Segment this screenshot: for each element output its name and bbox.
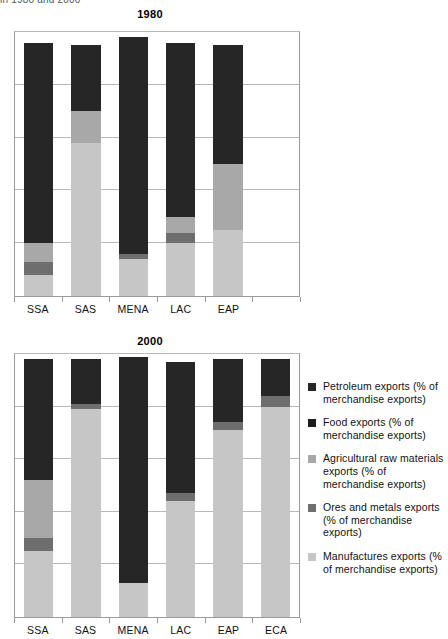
top-caption: in 1980 and 2000: [0, 0, 300, 5]
axis-tick: [157, 618, 158, 623]
plot-area-2000: [14, 353, 300, 618]
axis-label-eap: EAP: [205, 624, 253, 636]
legend-item-ores[interactable]: Ores and metals exports (% of merchandis…: [308, 501, 448, 539]
stacked-bar[interactable]: [71, 45, 100, 296]
bar-segment-petroleum[interactable]: [71, 45, 100, 111]
stacked-bar[interactable]: [119, 357, 148, 617]
bar-segment-manufactures[interactable]: [213, 430, 242, 617]
axis-tick: [109, 618, 110, 623]
legend-item-manufactures[interactable]: Manufactures exports (% of merchandise e…: [308, 550, 448, 575]
bar-segment-petroleum[interactable]: [166, 43, 195, 217]
axis-tick: [300, 618, 301, 623]
bar-slot: [62, 32, 109, 296]
bar-slot: [110, 354, 157, 617]
bar-segment-petroleum[interactable]: [213, 359, 242, 422]
axis-labels-2000: SSASASMENALACEAPECA: [14, 624, 300, 636]
axis-label-ssa: SSA: [14, 303, 62, 315]
axis-tick: [14, 618, 15, 623]
bar-segment-agricultural[interactable]: [166, 217, 195, 233]
stacked-bar[interactable]: [24, 359, 53, 617]
bar-segment-manufactures[interactable]: [119, 583, 148, 617]
axis-tick: [252, 618, 253, 623]
legend-swatch-petroleum-icon: [308, 383, 316, 391]
legend-label: Food exports (% of merchandise exports): [323, 416, 448, 441]
bar-segment-manufactures[interactable]: [166, 243, 195, 296]
bar-segment-petroleum[interactable]: [119, 357, 148, 583]
legend-swatch-agricultural-icon: [308, 455, 316, 463]
chart-title-2000: 2000: [0, 335, 300, 347]
axis-label-eca: ECA: [252, 624, 300, 636]
bar-segment-petroleum[interactable]: [261, 359, 290, 396]
bar-segment-ores[interactable]: [261, 396, 290, 407]
stacked-bar[interactable]: [213, 359, 242, 617]
bar-segment-ores[interactable]: [213, 422, 242, 430]
bar-segment-ores[interactable]: [166, 493, 195, 501]
axis-tick: [157, 297, 158, 302]
bar-segment-manufactures[interactable]: [261, 407, 290, 617]
bar-segment-agricultural[interactable]: [24, 480, 53, 538]
axis-label-mena: MENA: [109, 624, 157, 636]
bar-group: [15, 354, 299, 617]
axis-tick: [14, 297, 15, 302]
axis-label-ssa: SSA: [14, 624, 62, 636]
bar-slot: [157, 32, 204, 296]
bar-segment-manufactures[interactable]: [166, 501, 195, 617]
bar-segment-petroleum[interactable]: [213, 45, 242, 164]
axis-tick: [109, 297, 110, 302]
axis-tick: [252, 297, 253, 302]
bar-segment-petroleum[interactable]: [119, 37, 148, 253]
bar-segment-ores[interactable]: [24, 538, 53, 551]
axis-tick: [62, 618, 63, 623]
bar-segment-petroleum[interactable]: [166, 362, 195, 493]
bar-segment-agricultural[interactable]: [24, 243, 53, 261]
axis-tick: [205, 618, 206, 623]
stacked-bar[interactable]: [166, 43, 195, 296]
bar-segment-manufactures[interactable]: [213, 230, 242, 296]
legend-item-petroleum[interactable]: Petroleum exports (% of merchandise expo…: [308, 380, 448, 405]
bar-segment-petroleum[interactable]: [71, 359, 100, 404]
chart-panel-2000: 2000 SSASASMENALACEAPECA: [0, 333, 300, 639]
stacked-bar[interactable]: [119, 37, 148, 296]
legend-swatch-ores-icon: [308, 504, 316, 512]
bar-slot: [252, 32, 299, 296]
legend-item-food[interactable]: Food exports (% of merchandise exports): [308, 416, 448, 441]
stacked-bar[interactable]: [213, 45, 242, 296]
bar-slot: [15, 354, 62, 617]
chart-panel-1980: 1980 SSASASMENALACEAP: [0, 6, 300, 316]
bar-segment-petroleum[interactable]: [24, 43, 53, 244]
stacked-bar[interactable]: [166, 362, 195, 617]
axis-label-mena: MENA: [109, 303, 157, 315]
stacked-bar[interactable]: [24, 43, 53, 296]
bar-slot: [157, 354, 204, 617]
stacked-bar[interactable]: [71, 359, 100, 617]
bar-segment-petroleum[interactable]: [24, 359, 53, 480]
bar-segment-manufactures[interactable]: [119, 259, 148, 296]
axis-tick: [300, 297, 301, 302]
legend-label: Ores and metals exports (% of merchandis…: [323, 501, 448, 539]
bar-segment-manufactures[interactable]: [24, 275, 53, 296]
bar-segment-ores[interactable]: [24, 262, 53, 275]
legend-swatch-food-icon: [308, 419, 316, 427]
bar-segment-manufactures[interactable]: [71, 143, 100, 296]
axis-label-lac: LAC: [157, 303, 205, 315]
plot-area-1980: [14, 31, 300, 297]
bar-segment-manufactures[interactable]: [71, 409, 100, 617]
axis-label-sas: SAS: [62, 624, 110, 636]
axis-label-eap: EAP: [205, 303, 253, 315]
legend-swatch-manufactures-icon: [308, 553, 316, 561]
axis-labels-1980: SSASASMENALACEAP: [14, 303, 300, 315]
bar-slot: [110, 32, 157, 296]
bar-slot: [15, 32, 62, 296]
bar-segment-agricultural[interactable]: [71, 111, 100, 143]
legend-label: Agricultural raw materials exports (% of…: [323, 452, 448, 490]
bar-group: [15, 32, 299, 296]
stacked-bar[interactable]: [261, 359, 290, 617]
bar-segment-ores[interactable]: [166, 233, 195, 244]
axis-tick: [205, 297, 206, 302]
bar-segment-manufactures[interactable]: [24, 551, 53, 617]
legend-label: Petroleum exports (% of merchandise expo…: [323, 380, 448, 405]
bar-segment-agricultural[interactable]: [213, 164, 242, 230]
legend-item-agricultural[interactable]: Agricultural raw materials exports (% of…: [308, 452, 448, 490]
axis-tick: [62, 297, 63, 302]
chart-legend: Petroleum exports (% of merchandise expo…: [308, 380, 448, 586]
